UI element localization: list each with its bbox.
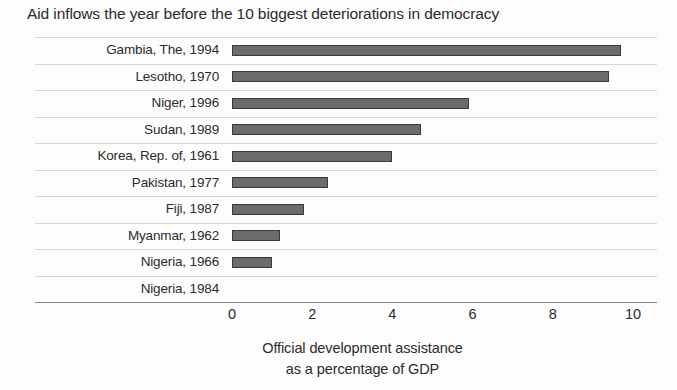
x-tick-label: 10 (613, 306, 653, 323)
x-tick-label: 6 (453, 306, 493, 323)
category-label: Lesotho, 1970 (0, 70, 219, 84)
gridline (35, 249, 657, 250)
bar (232, 124, 421, 135)
x-axis-title-line-2: as a percentage of GDP (48, 359, 677, 380)
x-tick-label: 0 (212, 306, 252, 323)
category-label: Niger, 1996 (0, 96, 219, 110)
category-label: Myanmar, 1962 (0, 229, 219, 243)
bar (232, 71, 609, 82)
category-label: Nigeria, 1966 (0, 255, 219, 269)
gridline (35, 143, 657, 144)
x-axis-title: Official development assistance as a per… (0, 338, 677, 380)
gridline (35, 276, 657, 277)
bar (232, 230, 280, 241)
bar (232, 98, 469, 109)
plot-area: Gambia, The, 1994Lesotho, 1970Niger, 199… (0, 0, 677, 390)
gridline (35, 117, 657, 118)
bar (232, 204, 304, 215)
category-label: Gambia, The, 1994 (0, 43, 219, 57)
bar (232, 151, 392, 162)
bar (232, 257, 272, 268)
gridline (35, 37, 657, 38)
category-label: Sudan, 1989 (0, 123, 219, 137)
chart-figure: Aid inflows the year before the 10 bigge… (0, 0, 677, 390)
x-axis-title-line-1: Official development assistance (262, 340, 463, 356)
gridline (35, 196, 657, 197)
bar (232, 177, 328, 188)
category-label: Fiji, 1987 (0, 202, 219, 216)
x-tick-label: 4 (372, 306, 412, 323)
category-label: Korea, Rep. of, 1961 (0, 149, 219, 163)
gridline (35, 170, 657, 171)
x-axis-line (35, 302, 657, 303)
x-tick-label: 8 (533, 306, 573, 323)
category-label: Pakistan, 1977 (0, 176, 219, 190)
gridline (35, 90, 657, 91)
category-label: Nigeria, 1984 (0, 282, 219, 296)
gridline (35, 223, 657, 224)
gridline (35, 64, 657, 65)
x-tick-label: 2 (292, 306, 332, 323)
bar (232, 45, 621, 56)
